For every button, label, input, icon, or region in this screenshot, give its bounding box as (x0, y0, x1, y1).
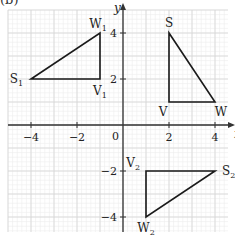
vertex-label-w2: W2 (137, 221, 154, 237)
y-axis-arrow-icon (120, 3, 126, 10)
vertex-label-v: V (158, 105, 168, 119)
x-tick-label: 2 (166, 131, 173, 144)
x-tick-label: −2 (69, 131, 85, 144)
coordinate-figure: (b) yx0−4−22442−2−4SVWS1V1W1S2V2W2 (0, 0, 235, 237)
part-label: (b) (0, 0, 18, 7)
x-axis-label: x (234, 127, 235, 141)
coordinate-grid: yx0−4−22442−2−4SVWS1V1W1S2V2W2 (0, 0, 235, 237)
origin-label: 0 (112, 130, 119, 143)
y-axis-label: y (113, 1, 121, 15)
y-tick-label: −2 (101, 165, 117, 178)
vertex-label-w: W (215, 105, 228, 119)
vertex-label-v2: V2 (125, 156, 140, 172)
x-tick-label: 4 (212, 131, 219, 144)
y-tick-label: −4 (101, 211, 117, 224)
y-tick-label: 4 (110, 27, 117, 40)
y-tick-label: 2 (110, 73, 117, 86)
vertex-label-s2: S2 (222, 164, 235, 180)
vertex-label-s: S (165, 16, 173, 30)
x-tick-label: −4 (23, 131, 39, 144)
